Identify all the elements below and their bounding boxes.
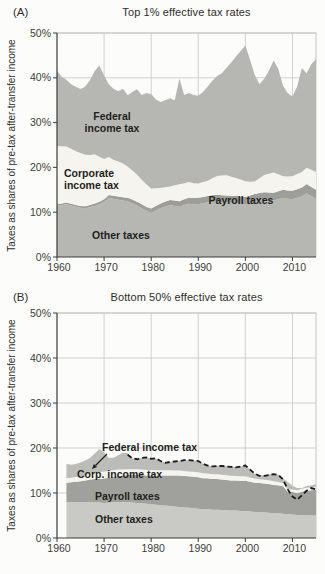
y-tick-label: 20% [30,442,51,454]
x-tick-label: 2000 [236,261,260,273]
x-tick-label: 1980 [142,261,166,273]
top1-stacked-area-plot: 0%10%20%30%40%50%19601970198019902000201… [0,0,325,285]
y-tick-label: 30% [30,116,51,128]
x-tick-label: 2000 [236,542,260,554]
y-tick-label: 30% [30,397,51,409]
chart-b-title: Bottom 50% effective tax rates [48,291,325,303]
x-tick-label: 1990 [189,261,213,273]
x-tick-label: 1970 [94,261,118,273]
x-tick-label: 1980 [142,542,166,554]
y-tick-label: 40% [30,71,51,83]
x-tick-label: 1970 [94,542,118,554]
y-tick-label: 40% [30,352,51,364]
x-tick-label: 2010 [283,261,307,273]
chart-b-y-axis-label: Taxes as shares of pre-tax after-transfe… [6,313,19,539]
bottom50-stacked-area-plot: 0%10%20%30%40%50%19601970198019902000201… [0,285,325,574]
y-tick-label: 50% [30,307,51,319]
y-tick-label: 10% [30,206,51,218]
federal-income-tax-arrow-icon [86,451,110,473]
x-tick-label: 1960 [47,261,71,273]
y-tick-label: 20% [30,161,51,173]
chart-a-title: Top 1% effective tax rates [48,6,325,18]
chart-panel-bottom50: 0%10%20%30%40%50%19601970198019902000201… [0,285,325,574]
panel-a-label: (A) [13,6,28,18]
y-tick-label: 50% [30,27,51,39]
x-tick-label: 1990 [189,542,213,554]
y-tick-label: 10% [30,487,51,499]
chart-panel-top1: 0%10%20%30%40%50%19601970198019902000201… [0,0,325,285]
x-tick-label: 1960 [47,542,71,554]
panel-b-label: (B) [13,291,28,303]
chart-a-y-axis-label: Taxes as shares of pre-tax after-transfe… [6,33,19,259]
x-tick-label: 2010 [283,542,307,554]
